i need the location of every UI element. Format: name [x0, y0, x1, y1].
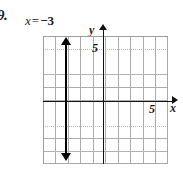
arrow-up-icon: [61, 37, 71, 45]
arrow-up-icon: [99, 24, 107, 30]
y-axis-tick-label: 5: [92, 41, 98, 56]
arrow-right-icon: [172, 96, 178, 104]
figure-graph-of-linear-equation: 9. x=−3 y x 5 5: [0, 0, 183, 183]
equation-operator: =: [31, 13, 40, 28]
equation-lhs: x: [25, 13, 31, 28]
y-axis: [103, 29, 104, 164]
equation-label: x=−3: [25, 13, 54, 29]
plotted-line-x-equals-minus-3: [65, 43, 67, 155]
equation-rhs: −3: [40, 13, 54, 28]
arrow-down-icon: [61, 153, 71, 161]
x-axis-tick-label: 5: [149, 102, 155, 117]
problem-number: 9.: [0, 7, 7, 24]
